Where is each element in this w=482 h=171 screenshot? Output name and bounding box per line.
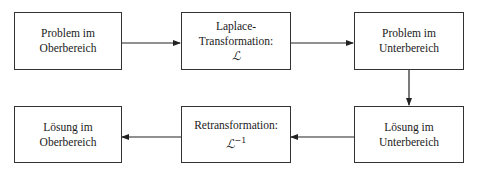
node-label-line: Retransformation: [194,118,278,133]
node-retransformation: Retransformation: ℒ−1 [181,106,291,163]
node-laplace-transformation: Laplace- Transformation: ℒ [181,12,291,70]
node-problem-unterbereich: Problem im Unterbereich [354,12,464,70]
node-problem-oberbereich: Problem im Oberbereich [14,12,122,70]
node-label-line: Laplace- [216,19,256,34]
node-label-line: Transformation: [199,34,273,49]
node-label-line: Unterbereich [379,135,439,150]
laplace-symbol: ℒ [232,49,241,64]
node-label-line: Oberbereich [40,41,97,56]
inverse-laplace-symbol: ℒ−1 [226,133,247,152]
node-label-line: Problem im [382,26,436,41]
node-label-line: Lösung im [43,120,93,135]
node-label-line: Problem im [41,26,95,41]
node-loesung-oberbereich: Lösung im Oberbereich [14,106,122,163]
node-label-line: Unterbereich [379,41,439,56]
node-loesung-unterbereich: Lösung im Unterbereich [354,106,464,163]
node-label-line: Lösung im [384,120,434,135]
node-label-line: Oberbereich [40,135,97,150]
